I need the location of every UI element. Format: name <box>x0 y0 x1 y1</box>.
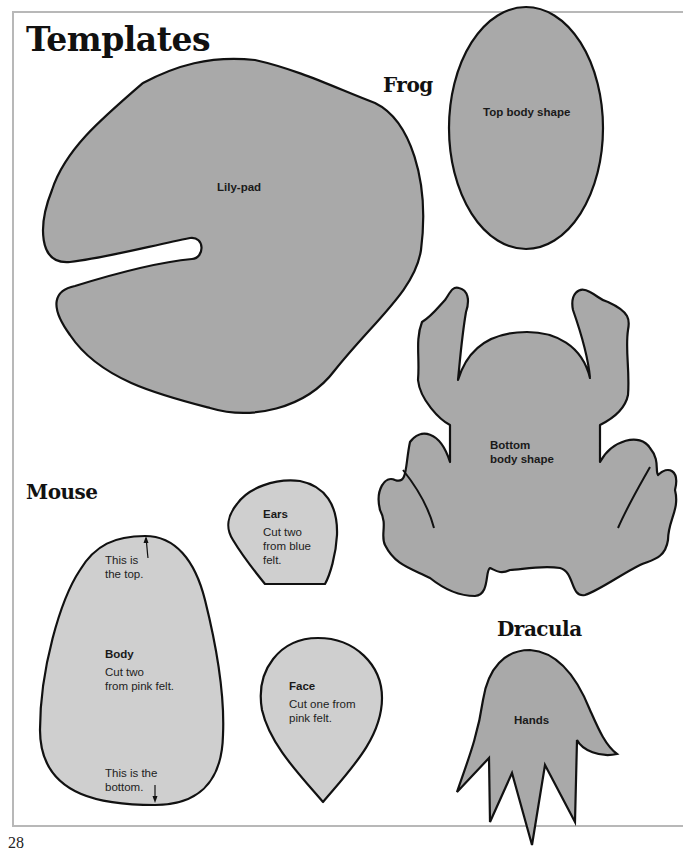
body-bottom-note-line2: bottom. <box>105 781 143 793</box>
body-top-note-line1: This is <box>105 554 138 566</box>
body-top-note-line2: the top. <box>105 568 143 580</box>
lily-pad-shape <box>43 59 423 413</box>
face-label: Face <box>289 679 355 693</box>
body-label: Body <box>105 647 174 661</box>
page-title: Templates <box>26 20 210 59</box>
top-body-label: Top body shape <box>483 106 570 118</box>
bottom-body-label-line1: Bottom <box>490 439 530 451</box>
ears-instruction-line3: felt. <box>263 554 282 566</box>
dracula-section-heading: Dracula <box>497 617 582 641</box>
face-instruction-line1: Cut one from <box>289 698 355 710</box>
bottom-body-label-line2: body shape <box>490 453 554 465</box>
hands-label: Hands <box>514 714 549 726</box>
face-instruction-line2: pink felt. <box>289 712 332 724</box>
ears-instruction-line1: Cut two <box>263 526 302 538</box>
mouse-section-heading: Mouse <box>26 480 98 504</box>
body-bottom-note-line1: This is the <box>105 767 157 779</box>
top-body-shape <box>449 7 603 249</box>
lily-pad-label: Lily-pad <box>217 181 261 193</box>
body-instruction-line2: from pink felt. <box>105 680 174 692</box>
ears-label: Ears <box>263 507 311 521</box>
page-number: 28 <box>8 834 24 852</box>
body-instruction-line1: Cut two <box>105 666 144 678</box>
frog-section-heading: Frog <box>383 73 433 97</box>
ears-instruction-line2: from blue <box>263 540 311 552</box>
hands-shape <box>457 650 617 845</box>
